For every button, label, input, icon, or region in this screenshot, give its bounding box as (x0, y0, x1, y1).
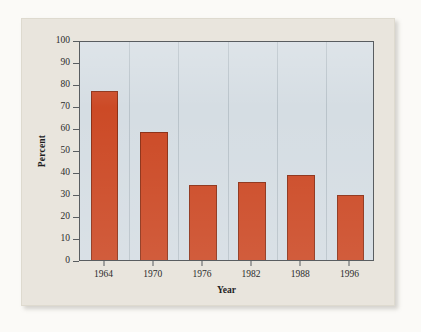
y-axis-tick-label: 0 (65, 256, 73, 266)
bar (140, 132, 168, 260)
bar (91, 91, 119, 260)
x-axis-tick: 1970 (143, 261, 162, 279)
x-axis-tick: 1964 (94, 261, 113, 279)
x-axis-tick-label: 1996 (340, 269, 359, 279)
y-axis: 0102030405060708090100 (22, 41, 79, 261)
x-axis-tick-mark (300, 261, 301, 266)
bar (287, 175, 315, 260)
gridline-vertical (326, 42, 327, 260)
x-axis-tick-mark (349, 261, 350, 266)
x-axis-tick: 1976 (192, 261, 211, 279)
plot-texture-overlay (80, 42, 373, 260)
x-axis-tick-mark (251, 261, 252, 266)
bar (238, 182, 266, 260)
figure-card: Percent 0102030405060708090100 196419701… (21, 18, 395, 306)
x-axis-tick: 1982 (242, 261, 261, 279)
y-axis-tick-label: 10 (61, 234, 74, 244)
y-axis-tick-label: 100 (56, 36, 73, 46)
gridline-vertical (178, 42, 179, 260)
gridline-vertical (228, 42, 229, 260)
x-axis-tick-mark (152, 261, 153, 266)
x-axis-tick-mark (201, 261, 202, 266)
y-axis-tick-label: 40 (61, 168, 74, 178)
y-axis-tick-label: 90 (61, 58, 74, 68)
plot-area (79, 41, 374, 261)
bar (337, 195, 365, 260)
x-axis: 196419701976198219881996 (79, 261, 374, 283)
y-axis-tick-label: 80 (61, 80, 74, 90)
x-axis-tick-label: 1964 (94, 269, 113, 279)
x-axis-tick-label: 1982 (242, 269, 261, 279)
y-axis-tick-label: 50 (61, 146, 74, 156)
x-axis-tick-label: 1976 (192, 269, 211, 279)
x-axis-tick: 1988 (291, 261, 310, 279)
x-axis-tick-mark (103, 261, 104, 266)
gridline-vertical (277, 42, 278, 260)
bar (189, 185, 217, 260)
x-axis-title-label: Year (79, 285, 374, 295)
x-axis-tick-label: 1970 (143, 269, 162, 279)
y-axis-tick-label: 20 (61, 212, 74, 222)
bar-chart: Percent 0102030405060708090100 196419701… (22, 19, 396, 307)
x-axis-tick: 1996 (340, 261, 359, 279)
x-axis-tick-label: 1988 (291, 269, 310, 279)
y-axis-tick-label: 70 (61, 102, 74, 112)
y-axis-tick-label: 30 (61, 190, 74, 200)
gridline-vertical (129, 42, 130, 260)
y-axis-tick-label: 60 (61, 124, 74, 134)
